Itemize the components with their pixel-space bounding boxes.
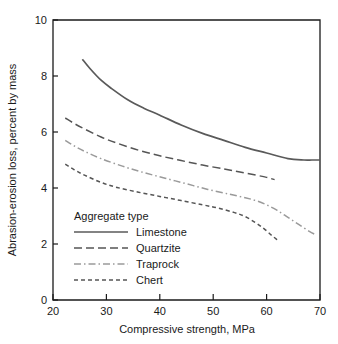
y-tick-label-6: 6 [41,126,47,138]
series-line-limestone [82,59,320,160]
y-tick-label-8: 8 [41,70,47,82]
x-tick-label-70: 70 [314,305,326,317]
x-tick-label-50: 50 [207,305,219,317]
legend-label-limestone: Limestone [136,226,187,238]
y-axis-title: Abrasion-erosion loss, percent by mass [6,63,18,256]
x-tick-label-40: 40 [154,305,166,317]
series-line-quartzite [65,118,274,180]
plot-border [53,20,320,300]
y-tick-label-2: 2 [41,238,47,250]
axes-frame [53,20,320,300]
y-tick-label-10: 10 [35,14,47,26]
chart-legend: Aggregate type LimestoneQuartziteTraproc… [74,210,187,286]
legend-title: Aggregate type [74,210,149,222]
legend-label-chert: Chert [136,274,163,286]
x-tick-label-30: 30 [100,305,112,317]
y-axis-ticks [53,20,58,300]
y-tick-labels: 0 2 4 6 8 10 [35,14,47,306]
line-chart: 0 2 4 6 8 10 20 30 40 50 60 70 Compressi… [0,0,338,344]
x-tick-label-20: 20 [47,305,59,317]
x-axis-ticks [53,294,320,300]
legend-label-traprock: Traprock [136,258,179,270]
y-tick-label-4: 4 [41,182,47,194]
x-tick-label-60: 60 [260,305,272,317]
x-axis-title: Compressive strength, MPa [119,323,256,335]
legend-label-quartzite: Quartzite [136,242,181,254]
x-tick-labels: 20 30 40 50 60 70 [47,305,326,317]
chart-figure: 0 2 4 6 8 10 20 30 40 50 60 70 Compressi… [0,0,338,344]
